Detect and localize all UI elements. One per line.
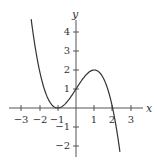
y-tick-label: −2	[55, 140, 70, 151]
y-tick-label: 4	[64, 26, 70, 37]
x-tick-label: −2	[33, 114, 48, 125]
y-axis-label: y	[71, 8, 79, 21]
x-tick-label: 3	[128, 114, 134, 125]
y-tick-label: −1	[55, 121, 70, 132]
y-tick-label: 3	[64, 45, 70, 56]
y-tick-label: 2	[64, 64, 70, 75]
x-tick-label: 1	[91, 114, 97, 125]
y-tick-label: 1	[64, 83, 70, 94]
x-axis-label: x	[146, 102, 153, 115]
function-graph: −3 −2 −1 1 2 3 4 3 2 1 −1 −2 x y	[0, 0, 157, 165]
x-tick-label: −3	[14, 114, 29, 125]
